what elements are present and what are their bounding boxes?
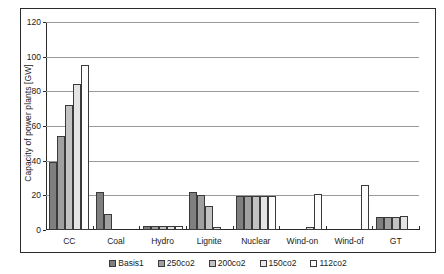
y-tick-mark xyxy=(43,230,46,231)
bar-groups xyxy=(46,22,419,230)
bar xyxy=(65,105,73,230)
bar xyxy=(252,196,260,230)
bar-group xyxy=(93,22,140,230)
bar xyxy=(143,226,151,230)
bar-set xyxy=(376,22,416,230)
y-tick-label: 40 xyxy=(32,156,41,165)
bar-group xyxy=(279,22,326,230)
bar-set xyxy=(236,22,276,230)
bar xyxy=(57,136,65,230)
legend-swatch-icon xyxy=(109,260,116,267)
bar xyxy=(189,192,197,230)
bar xyxy=(236,196,244,230)
legend-swatch-icon xyxy=(310,260,317,267)
x-tick-mark xyxy=(279,226,280,230)
y-tick-label: 60 xyxy=(32,122,41,131)
bar xyxy=(49,162,57,230)
legend-label: 250co2 xyxy=(167,259,195,268)
bar-set xyxy=(282,22,322,230)
bar-set xyxy=(189,22,229,230)
bar xyxy=(392,217,400,230)
y-tick-label: 0 xyxy=(36,226,41,235)
bar-set xyxy=(96,22,136,230)
y-tick-label: 100 xyxy=(27,52,41,61)
plot-area: 020406080100120 xyxy=(46,22,419,230)
x-tick-mark xyxy=(93,226,94,230)
x-tick-mark xyxy=(419,226,420,230)
bar-group xyxy=(372,22,419,230)
legend-label: 150co2 xyxy=(269,259,297,268)
x-axis-label: Wind-on xyxy=(279,234,326,248)
x-axis-label: Nuclear xyxy=(233,234,280,248)
bar xyxy=(384,217,392,230)
bar xyxy=(73,84,81,230)
bar xyxy=(205,206,213,230)
x-axis-label: GT xyxy=(372,234,419,248)
bar xyxy=(175,226,183,230)
bar xyxy=(213,227,221,230)
legend-item[interactable]: Basis1 xyxy=(109,259,144,268)
x-tick-mark xyxy=(186,226,187,230)
legend-item[interactable]: 150co2 xyxy=(260,259,297,268)
bar xyxy=(306,227,314,230)
bar xyxy=(96,192,104,230)
bar xyxy=(104,214,112,230)
legend-item[interactable]: 250co2 xyxy=(158,259,195,268)
x-axis-label: CC xyxy=(46,234,93,248)
bar xyxy=(151,226,159,230)
bar xyxy=(167,226,175,230)
bar-group xyxy=(233,22,280,230)
x-tick-mark xyxy=(372,226,373,230)
legend-swatch-icon xyxy=(260,260,267,267)
x-tick-mark xyxy=(326,226,327,230)
x-axis-label: Coal xyxy=(93,234,140,248)
x-tick-mark xyxy=(233,226,234,230)
bar xyxy=(81,65,89,230)
bar-set xyxy=(49,22,89,230)
legend-label: Basis1 xyxy=(118,259,144,268)
y-tick-label: 20 xyxy=(32,191,41,200)
bar xyxy=(159,226,167,230)
bar-group xyxy=(139,22,186,230)
legend-label: 112co2 xyxy=(319,259,346,268)
legend-item[interactable]: 200co2 xyxy=(209,259,246,268)
chart-legend: Basis1250co2200co2150co2112co2 xyxy=(20,256,436,270)
x-tick-mark xyxy=(46,226,47,230)
bar-group xyxy=(46,22,93,230)
x-axis-label: Lignite xyxy=(186,234,233,248)
x-axis-label: Wind-of xyxy=(326,234,373,248)
bar xyxy=(268,196,276,230)
x-axis-label: Hydro xyxy=(139,234,186,248)
legend-swatch-icon xyxy=(209,260,216,267)
bar-group xyxy=(186,22,233,230)
bar xyxy=(361,185,369,230)
bar xyxy=(260,196,268,230)
bar-set xyxy=(143,22,183,230)
bar-set xyxy=(329,22,369,230)
x-axis-labels: CCCoalHydroLigniteNuclearWind-onWind-ofG… xyxy=(46,234,419,248)
bar xyxy=(400,216,408,230)
legend-swatch-icon xyxy=(158,260,165,267)
bar xyxy=(244,196,252,230)
y-tick-label: 80 xyxy=(32,87,41,96)
x-tick-mark xyxy=(139,226,140,230)
y-tick-label: 120 xyxy=(27,18,41,27)
legend-item[interactable]: 112co2 xyxy=(310,259,346,268)
bar xyxy=(314,194,322,230)
capacity-bar-chart: Capacity of power plants [GW] 0204060801… xyxy=(0,0,444,274)
bar-group xyxy=(326,22,373,230)
bar xyxy=(376,217,384,230)
legend-label: 200co2 xyxy=(218,259,246,268)
bar xyxy=(197,195,205,230)
